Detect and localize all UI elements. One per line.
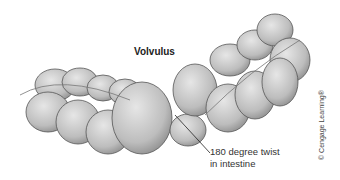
diagram-title: Volvulus [134,46,175,57]
annotation-line-1: 180 degree twist [210,146,280,158]
copyright-credit: © Cengage Learning® [318,90,325,160]
volvulus-diagram: Volvulus 180 degree twist in intestine ©… [0,0,340,180]
annotation-line-2: in intestine [210,158,280,170]
twist-annotation: 180 degree twist in intestine [210,146,280,170]
intestine-illustration [0,0,340,180]
